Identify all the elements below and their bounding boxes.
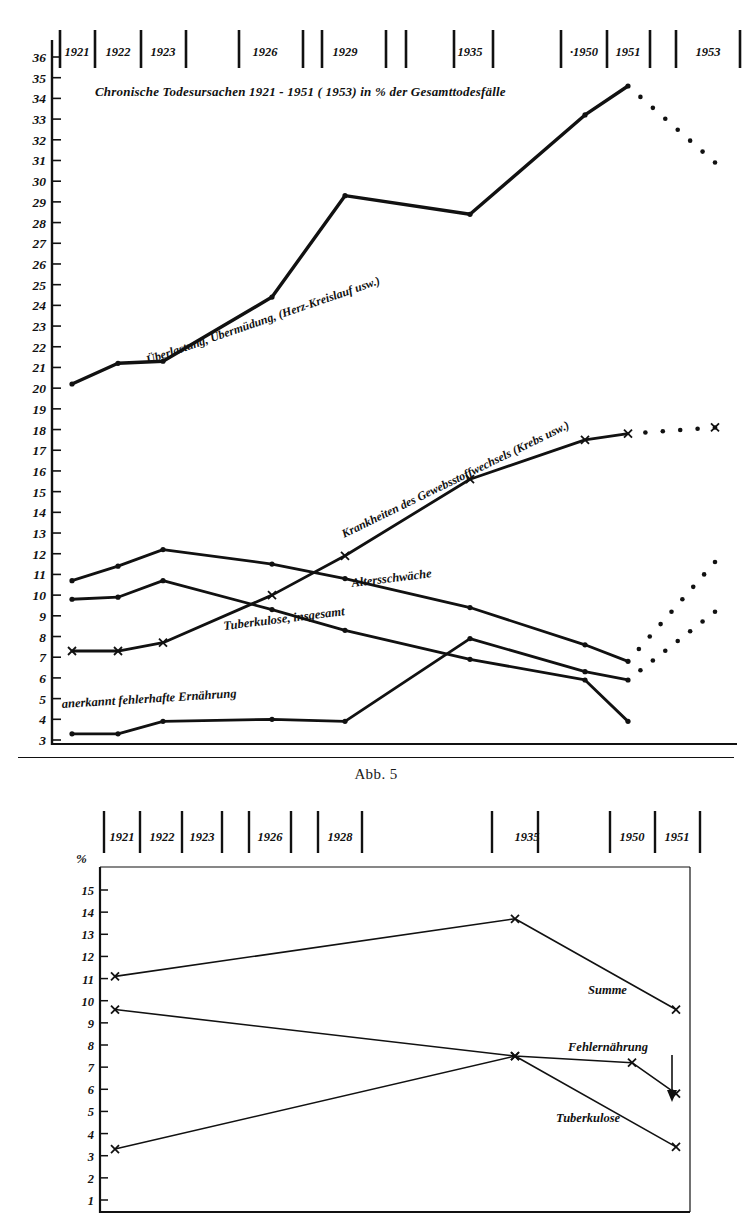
y-tick-label: 11 [33, 567, 46, 582]
y-tick-label: 10 [82, 995, 95, 1009]
marker-dot [625, 83, 630, 88]
y-tick-label: 7 [39, 650, 47, 665]
figure-2-y-unit: % [76, 851, 87, 866]
extension-dot [651, 106, 656, 111]
y-tick-label: 15 [82, 884, 95, 898]
y-tick-label: 23 [32, 319, 47, 334]
figure-2-y-ticks [100, 890, 108, 1200]
extension-dot [713, 609, 718, 614]
marker-dot [467, 212, 472, 217]
y-tick-label: 5 [39, 692, 46, 707]
series-label-tuberkulose: Tuberkulose [556, 1111, 621, 1125]
y-tick-label: 13 [82, 928, 95, 942]
y-tick-label: 1 [88, 1194, 94, 1208]
y-tick-label: 27 [32, 236, 48, 251]
extension-dot [675, 639, 680, 644]
y-tick-label: 11 [82, 973, 94, 987]
x-tick-label: 1922 [150, 830, 175, 844]
figure-2-svg: % 151413121110987654321 1921192219231926… [0, 805, 752, 1231]
extension-dot [638, 668, 643, 673]
x-tick-label: 1935 [515, 830, 540, 844]
x-tick-label: 1935 [458, 45, 483, 59]
series-line [115, 1056, 676, 1149]
x-tick-label: 1929 [333, 45, 359, 59]
marker-dot [467, 636, 472, 641]
series-line [72, 86, 628, 384]
marker-dot [342, 719, 347, 724]
y-tick-label: 6 [88, 1083, 95, 1097]
y-tick-label: 22 [32, 340, 47, 355]
marker-dot [467, 657, 472, 662]
marker-dot [342, 628, 347, 633]
marker-dot [115, 564, 120, 569]
extension-dot [680, 597, 685, 602]
scanned-figure-page: 3635343332313029282726252423222120191817… [0, 0, 752, 1231]
extension-dot [700, 619, 705, 624]
y-tick-label: 20 [32, 381, 47, 396]
y-tick-label: 26 [32, 257, 47, 272]
y-tick-label: 32 [32, 133, 47, 148]
marker-dot [160, 719, 165, 724]
figure-1-y-tick-labels: 3635343332313029282726252423222120191817… [32, 50, 48, 748]
y-tick-label: 15 [33, 485, 47, 500]
series-1 [111, 915, 680, 1014]
extension-dot [700, 149, 705, 154]
series-label-ueberlastung: Überlastung, Übermüdung, (Herz-Kreislauf… [144, 273, 381, 366]
x-tick-label: 1926 [253, 45, 279, 59]
y-tick-label: 3 [38, 733, 46, 748]
figure-1-chronic-death-causes: 3635343332313029282726252423222120191817… [0, 0, 752, 760]
series-line [72, 639, 628, 734]
x-tick-label: 1928 [328, 830, 354, 844]
y-tick-label: 36 [32, 50, 47, 65]
y-tick-label: 33 [32, 112, 47, 127]
figure-2-y-tick-labels: 151413121110987654321 [82, 884, 95, 1208]
marker-dot [625, 719, 630, 724]
y-tick-label: 3 [87, 1150, 94, 1164]
extension-dot [688, 138, 693, 143]
y-tick-label: 31 [32, 153, 47, 168]
figure-1-caption: Abb. 5 [0, 766, 752, 783]
figure-2-series-labels: Summe Fehlernährung Tuberkulose [556, 983, 648, 1125]
y-tick-label: 16 [33, 464, 47, 479]
x-tick-label: 1951 [665, 830, 690, 844]
x-tick-label: 1923 [190, 830, 215, 844]
marker-dot [269, 294, 274, 299]
figure-1-y-ticks [52, 57, 61, 740]
marker-dot [625, 677, 630, 682]
marker-dot [160, 578, 165, 583]
series-label-ernaehrung: anerkannt fehlerhafte Ernährung [61, 686, 237, 711]
series-3 [111, 1052, 680, 1153]
y-tick-label: 30 [32, 174, 47, 189]
x-tick-label: 1921 [110, 830, 135, 844]
y-tick-label: 4 [38, 712, 46, 727]
marker-dot [342, 576, 347, 581]
extension-dot [651, 658, 656, 663]
y-tick-label: 34 [32, 91, 47, 106]
y-tick-label: 21 [32, 360, 47, 375]
series-line [72, 434, 628, 651]
extension-dot [637, 647, 642, 652]
marker-dot [342, 193, 347, 198]
y-tick-label: 12 [82, 950, 95, 964]
extension-dot [702, 572, 707, 577]
y-tick-label: 28 [32, 216, 47, 231]
x-tick-label: 1921 [65, 45, 90, 59]
extension-dot [669, 609, 674, 614]
figure-1-axes [52, 40, 737, 745]
figure-1-svg: 3635343332313029282726252423222120191817… [0, 0, 752, 760]
marker-dot [115, 731, 120, 736]
figure-2-x-tick-labels: 19211922192319261928193519501951 [110, 830, 690, 844]
series-label-summe: Summe [588, 983, 627, 997]
extension-dot [643, 430, 648, 435]
marker-dot [269, 717, 274, 722]
extension-dot [658, 622, 663, 627]
y-tick-label: 35 [32, 71, 47, 86]
y-tick-label: 8 [88, 1039, 95, 1053]
y-tick-label: 19 [33, 402, 47, 417]
marker-dot [69, 731, 74, 736]
y-tick-label: 2 [87, 1172, 94, 1186]
figure-1-title: Chronische Todesursachen 1921 - 1951 ( 1… [95, 84, 506, 99]
x-tick-label: 1922 [106, 45, 131, 59]
extension-dot [713, 160, 718, 165]
y-tick-label: 10 [33, 588, 47, 603]
